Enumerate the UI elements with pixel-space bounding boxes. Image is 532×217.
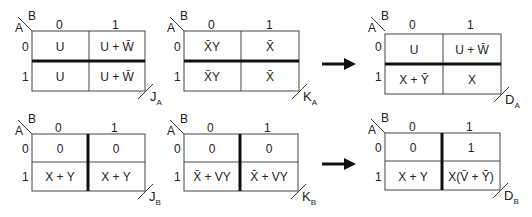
arrow-right-icon — [322, 158, 356, 170]
col-header-1: 1 — [112, 18, 119, 32]
cell-0-1: 1 — [468, 141, 475, 155]
kmap-ja: B A 0 1 0 1 U U + W̄ U U + W̄ JA — [15, 9, 163, 107]
cell-0-1: U + W̄ — [100, 40, 134, 54]
cell-1-0: U — [56, 70, 65, 84]
map-label: KA — [303, 89, 318, 107]
cell-0-1: 0 — [113, 142, 120, 156]
cell-0-1: X̄ — [266, 40, 274, 54]
cell-0-0: 0 — [57, 142, 64, 156]
kmap-ka: B A 0 1 0 1 X̄Y X̄ X̄Y X̄ KA — [167, 9, 318, 107]
cell-1-0: X̄Y — [204, 70, 220, 84]
cell-1-1: X + Y — [101, 170, 130, 184]
col-header-1: 1 — [266, 18, 273, 32]
cell-1-0: X̄ + VY — [193, 170, 231, 184]
cell-1-0: X + Y — [45, 170, 74, 184]
col-var-label: B — [28, 9, 36, 23]
row-header-1: 1 — [375, 70, 382, 84]
col-var-label: B — [381, 111, 389, 125]
cell-1-0: X + Ȳ — [399, 73, 429, 87]
cell-1-1: X — [468, 73, 476, 87]
map-label: DB — [504, 188, 519, 206]
cell-0-1: 0 — [266, 142, 273, 156]
col-header-1: 1 — [467, 18, 474, 32]
row-header-0: 0 — [22, 142, 29, 156]
cell-0-0: X̄Y — [204, 40, 220, 54]
row-header-0: 0 — [375, 40, 382, 54]
col-var-label: B — [381, 9, 389, 23]
cell-0-0: U — [56, 40, 65, 54]
col-var-label: B — [28, 112, 36, 126]
map-label: JA — [150, 89, 163, 107]
row-header-0: 0 — [174, 40, 181, 54]
col-header-0: 0 — [409, 120, 416, 134]
cell-0-0: 0 — [410, 141, 417, 155]
map-label: JB — [149, 189, 161, 207]
cell-1-1: X̄ — [266, 70, 274, 84]
kmap-kb: B A 0 1 0 1 0 0 X̄ + VY X̄ + VY KB — [167, 112, 316, 207]
kmap-db: B A 0 1 0 1 0 1 X + Y X(V̄ + Ȳ) DB — [368, 111, 519, 206]
col-header-1: 1 — [264, 121, 271, 135]
row-header-1: 1 — [375, 170, 382, 184]
kmap-da: B A 0 1 0 1 U U + W̄ X + Ȳ X DA — [368, 9, 520, 110]
col-header-0: 0 — [55, 121, 62, 135]
cell-0-1: U + W̄ — [455, 43, 489, 57]
row-var-label: A — [167, 21, 175, 35]
cell-0-0: U — [410, 43, 419, 57]
row-header-1: 1 — [22, 170, 29, 184]
col-header-0: 0 — [409, 18, 416, 32]
row-var-label: A — [368, 123, 376, 137]
row-header-1: 1 — [174, 70, 181, 84]
row-var-label: A — [15, 124, 23, 138]
row-var-label: A — [167, 124, 175, 138]
col-header-0: 0 — [207, 121, 214, 135]
cell-1-1: U + W̄ — [100, 70, 134, 84]
row-header-0: 0 — [174, 142, 181, 156]
map-label: KB — [302, 189, 316, 207]
row-var-label: A — [368, 21, 376, 35]
row-header-1: 1 — [174, 170, 181, 184]
arrow-right-icon — [322, 58, 356, 70]
cell-0-0: 0 — [209, 142, 216, 156]
row-header-0: 0 — [375, 141, 382, 155]
row-header-0: 0 — [22, 40, 29, 54]
cell-1-1: X̄ + VY — [250, 170, 288, 184]
col-header-0: 0 — [56, 18, 63, 32]
col-header-1: 1 — [111, 121, 118, 135]
cell-1-0: X + Y — [398, 170, 427, 184]
cell-1-1: X(V̄ + Ȳ) — [448, 170, 494, 184]
col-var-label: B — [180, 112, 188, 126]
kmap-diagram: B A 0 1 0 1 U U + W̄ U U + W̄ JA B A 0 1… — [0, 0, 532, 217]
kmap-jb: B A 0 1 0 1 0 0 X + Y X + Y JB — [15, 112, 161, 207]
col-var-label: B — [180, 9, 188, 23]
row-var-label: A — [15, 21, 23, 35]
map-label: DA — [505, 92, 520, 110]
col-header-0: 0 — [208, 18, 215, 32]
col-header-1: 1 — [466, 120, 473, 134]
row-header-1: 1 — [22, 70, 29, 84]
